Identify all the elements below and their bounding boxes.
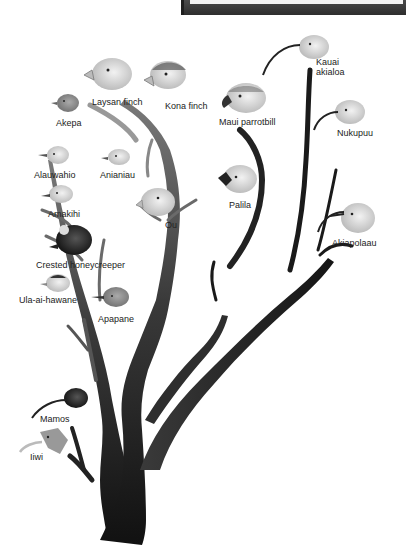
maui-parrotbill-head: [222, 83, 266, 113]
iiwi-head: [20, 428, 68, 454]
label-amakihi: Amakihi: [48, 209, 80, 219]
alauwahio-head: [38, 146, 69, 164]
akepa-head: [51, 94, 79, 112]
laysan-finch-head: [84, 58, 132, 90]
label-maui-parrotbill: Maui parrotbill: [219, 117, 276, 127]
amakihi-head: [41, 185, 73, 203]
label-ula-ai-hawane: Ula-ai-hawane: [19, 295, 77, 305]
apapane-head: [91, 287, 129, 307]
label-nukupuu: Nukupuu: [337, 128, 373, 138]
nukupuu-head: [314, 100, 365, 130]
anianiau-head: [101, 149, 130, 165]
label-kona-finch: Kona finch: [165, 101, 208, 111]
label-akiapolaau: Akiapolaau: [332, 238, 377, 248]
label-apapane: Apapane: [98, 314, 134, 324]
label-anianiau: Anianiau: [100, 170, 135, 180]
ou-head: [136, 188, 175, 216]
label-laysan-finch: Laysan finch: [92, 97, 143, 107]
akiapolaau-head: [318, 203, 375, 233]
label-kauai-akialoa-line1: Kauai: [316, 57, 339, 67]
palila-head: [218, 165, 257, 193]
label-iiwi: Iiwi: [30, 452, 43, 462]
label-palila: Palila: [229, 200, 251, 210]
label-ou: Ou: [165, 220, 177, 230]
label-alauwahio: Alauwahio: [34, 170, 76, 180]
kona-finch-head: [144, 61, 186, 89]
label-akepa: Akepa: [56, 118, 82, 128]
label-kauai-akialoa-line2: akialoa: [316, 67, 345, 77]
label-crested-honeycreeper: Crested honeycreeper: [36, 260, 125, 270]
ula-ai-hawane-head: [40, 274, 70, 292]
label-mamos: Mamos: [40, 414, 70, 424]
